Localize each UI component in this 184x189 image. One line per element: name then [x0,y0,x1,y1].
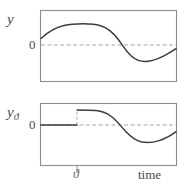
plot-bottom-svg [0,95,184,189]
plot-frame-top [41,11,177,82]
plot-top-svg [0,0,184,95]
panel-bottom: yϑ 0 ϑ time [0,95,184,189]
plot-frame-bottom [41,104,177,166]
signal-curve-bottom-active [77,110,176,143]
signal-curve-top [41,24,176,62]
figure-root: y 0 yϑ 0 ϑ time [0,0,184,189]
panel-top: y 0 [0,0,184,95]
